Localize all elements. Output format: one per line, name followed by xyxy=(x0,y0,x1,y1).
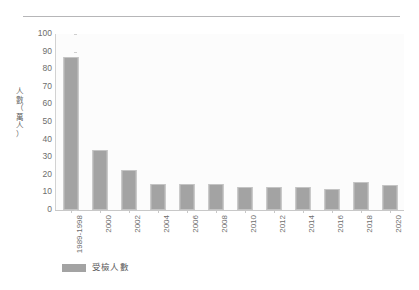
bar[interactable] xyxy=(92,150,107,210)
bar-slot xyxy=(375,34,404,210)
y-tick-label: 10 xyxy=(26,187,52,196)
x-tick-slot: 2010 xyxy=(230,210,259,270)
x-tick-slot: 2020 xyxy=(375,210,404,270)
y-tick-label: 70 xyxy=(26,82,52,91)
x-tick-slot: 2012 xyxy=(259,210,288,270)
bar-slot xyxy=(172,34,201,210)
bar-series-group xyxy=(56,34,404,210)
bar-slot xyxy=(114,34,143,210)
bar[interactable] xyxy=(208,184,223,210)
x-tick-mark xyxy=(100,210,101,213)
x-tick-label: 2000 xyxy=(104,215,113,233)
x-tick-label: 2006 xyxy=(191,215,200,233)
bar-slot xyxy=(56,34,85,210)
x-tick-slot: 2018 xyxy=(346,210,375,270)
bar-slot xyxy=(143,34,172,210)
x-tick-mark xyxy=(274,210,275,213)
x-tick-mark xyxy=(245,210,246,213)
x-tick-label: 2008 xyxy=(220,215,229,233)
bar[interactable] xyxy=(150,184,165,210)
x-tick-mark xyxy=(129,210,130,213)
x-tick-slot: 2014 xyxy=(288,210,317,270)
x-tick-mark xyxy=(158,210,159,213)
x-tick-mark xyxy=(361,210,362,213)
x-tick-mark xyxy=(71,210,72,213)
x-tick-slot: 2016 xyxy=(317,210,346,270)
y-tick-label: 100 xyxy=(26,29,52,38)
bar-slot xyxy=(259,34,288,210)
x-tick-label: 2014 xyxy=(307,215,316,233)
x-tick-label: 1989-1998 xyxy=(75,215,84,253)
y-tick-label: 40 xyxy=(26,135,52,144)
x-tick-slot: 2006 xyxy=(172,210,201,270)
x-tick-slot: 2002 xyxy=(114,210,143,270)
x-tick-label: 2020 xyxy=(394,215,403,233)
bar[interactable] xyxy=(295,187,310,210)
x-tick-slot: 2000 xyxy=(85,210,114,270)
bar[interactable] xyxy=(266,187,281,210)
y-axis-tick-labels: 1009080706050403020100 xyxy=(22,0,52,290)
bar[interactable] xyxy=(324,189,339,210)
legend-label: 受檢人數 xyxy=(92,263,129,272)
y-tick-label: 90 xyxy=(26,47,52,56)
y-axis-title-char: ） xyxy=(13,131,25,140)
x-tick-label: 2012 xyxy=(278,215,287,233)
y-tick-label: 60 xyxy=(26,99,52,108)
x-tick-label: 2002 xyxy=(133,215,142,233)
y-axis-title: 人數（萬人） xyxy=(13,88,25,140)
bar[interactable] xyxy=(63,57,78,210)
bar[interactable] xyxy=(353,182,368,210)
bar[interactable] xyxy=(237,187,252,210)
x-tick-mark xyxy=(216,210,217,213)
y-tick-label: 50 xyxy=(26,117,52,126)
x-tick-mark xyxy=(187,210,188,213)
y-tick-label: 0 xyxy=(26,205,52,214)
bar-slot xyxy=(346,34,375,210)
legend-swatch-icon xyxy=(62,264,86,272)
bar[interactable] xyxy=(382,185,397,210)
x-axis-tick-labels: 1989-19982000200220042006200820102012201… xyxy=(56,210,404,270)
x-tick-label: 2004 xyxy=(162,215,171,233)
x-tick-slot: 2004 xyxy=(143,210,172,270)
x-tick-slot: 2008 xyxy=(201,210,230,270)
x-tick-label: 2018 xyxy=(365,215,374,233)
bar-slot xyxy=(85,34,114,210)
bar[interactable] xyxy=(121,170,136,210)
x-tick-mark xyxy=(303,210,304,213)
x-tick-label: 2010 xyxy=(249,215,258,233)
y-tick-label: 20 xyxy=(26,170,52,179)
y-tick-label: 30 xyxy=(26,152,52,161)
bar-slot xyxy=(288,34,317,210)
x-tick-label: 2016 xyxy=(336,215,345,233)
bar-chart: 1009080706050403020100 人數（萬人） 1989-19982… xyxy=(0,0,419,290)
chart-legend: 受檢人數 xyxy=(62,263,129,272)
y-tick-label: 80 xyxy=(26,64,52,73)
x-tick-mark xyxy=(390,210,391,213)
x-tick-slot: 1989-1998 xyxy=(56,210,85,270)
bar[interactable] xyxy=(179,184,194,210)
bar-slot xyxy=(230,34,259,210)
x-tick-mark xyxy=(332,210,333,213)
bar-slot xyxy=(317,34,346,210)
bar-slot xyxy=(201,34,230,210)
